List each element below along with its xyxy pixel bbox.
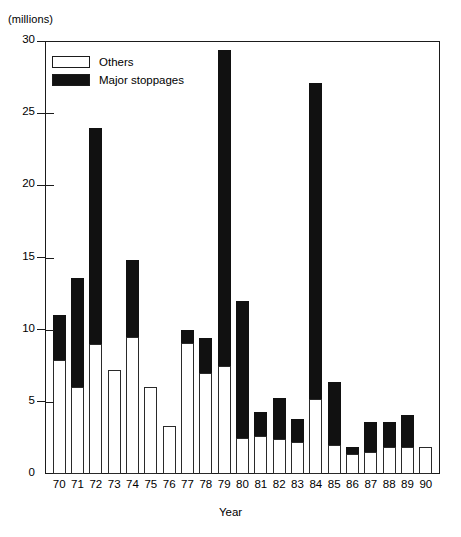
bar-84	[309, 83, 322, 474]
y-axis-inner-tick	[45, 402, 54, 403]
bar-72	[89, 128, 102, 474]
bar-segment-others	[419, 447, 432, 474]
bar-78	[199, 338, 212, 474]
bar-segment-major-stoppages	[273, 398, 286, 440]
bar-segment-major-stoppages	[71, 278, 84, 388]
y-axis-tick-label: 10	[22, 322, 35, 334]
y-axis-tick-label: 20	[22, 177, 35, 189]
y-axis-inner-tick	[45, 113, 54, 114]
bar-segment-others	[309, 399, 322, 474]
bar-90	[419, 447, 432, 474]
y-axis-tick-mark	[37, 329, 45, 330]
bar-segment-others	[163, 426, 176, 474]
x-axis-title: Year	[0, 506, 461, 518]
bar-segment-major-stoppages	[126, 260, 139, 336]
bar-segment-major-stoppages	[401, 415, 414, 447]
bar-segment-others	[236, 438, 249, 474]
bar-segment-major-stoppages	[291, 419, 304, 442]
y-axis-tick-label: 25	[22, 105, 35, 117]
bar-89	[401, 415, 414, 474]
bar-segment-others	[383, 447, 396, 474]
bar-segment-major-stoppages	[89, 128, 102, 345]
bar-76	[163, 426, 176, 474]
bar-segment-others	[218, 366, 231, 474]
bar-segment-others	[126, 337, 139, 474]
y-axis-tick-label: 5	[29, 394, 35, 406]
bar-segment-major-stoppages	[199, 338, 212, 373]
y-axis-inner-tick	[45, 185, 54, 186]
bar-87	[364, 422, 377, 474]
bar-segment-major-stoppages	[181, 330, 194, 343]
bar-77	[181, 330, 194, 474]
bar-79	[218, 50, 231, 474]
y-axis-tick-mark	[37, 41, 45, 42]
y-axis-tick-label: 15	[22, 250, 35, 262]
y-axis-inner-tick	[45, 330, 54, 331]
bar-segment-others	[291, 442, 304, 474]
bar-71	[71, 278, 84, 474]
y-axis-tick-mark	[37, 185, 45, 186]
bar-83	[291, 419, 304, 474]
bar-segment-others	[328, 445, 341, 474]
bar-segment-major-stoppages	[346, 447, 359, 454]
bar-segment-others	[401, 447, 414, 474]
bar-segment-major-stoppages	[364, 422, 377, 452]
bar-segment-major-stoppages	[53, 315, 66, 360]
bar-segment-others	[364, 452, 377, 474]
bar-segment-others	[273, 439, 286, 474]
bar-segment-others	[144, 387, 157, 474]
bar-segment-others	[53, 360, 66, 474]
bar-73	[108, 370, 121, 474]
y-axis-tick-mark	[37, 401, 45, 402]
bar-segment-others	[346, 454, 359, 474]
bar-segment-others	[71, 387, 84, 474]
y-axis-tick-mark	[37, 257, 45, 258]
y-axis-tick-mark	[37, 113, 45, 114]
bar-86	[346, 447, 359, 474]
y-axis: 051015202530	[0, 0, 45, 537]
bar-segment-others	[89, 344, 102, 474]
y-axis-inner-tick	[45, 258, 54, 259]
bar-segment-others	[108, 370, 121, 474]
y-axis-tick-label: 0	[29, 466, 35, 478]
bar-82	[273, 398, 286, 474]
bar-81	[254, 412, 267, 474]
x-axis-tick-label-90: 90	[415, 478, 436, 490]
chart-container: (millions) 051015202530 Others Major sto…	[0, 0, 461, 537]
bar-88	[383, 422, 396, 474]
bars-layer	[45, 41, 440, 474]
bar-segment-major-stoppages	[236, 301, 249, 438]
bar-segment-major-stoppages	[309, 83, 322, 399]
bar-segment-others	[254, 436, 267, 474]
bar-segment-major-stoppages	[218, 50, 231, 366]
bar-85	[328, 382, 341, 474]
bar-segment-others	[199, 373, 212, 474]
bar-70	[53, 315, 66, 474]
bar-segment-major-stoppages	[254, 412, 267, 437]
bar-74	[126, 260, 139, 474]
bar-75	[144, 387, 157, 474]
bar-segment-major-stoppages	[383, 422, 396, 447]
bar-80	[236, 301, 249, 474]
y-axis-tick-label: 30	[22, 33, 35, 45]
bar-segment-others	[181, 343, 194, 474]
x-axis: 7071727374757677787980818283848586878889…	[45, 478, 440, 496]
bar-segment-major-stoppages	[328, 382, 341, 446]
